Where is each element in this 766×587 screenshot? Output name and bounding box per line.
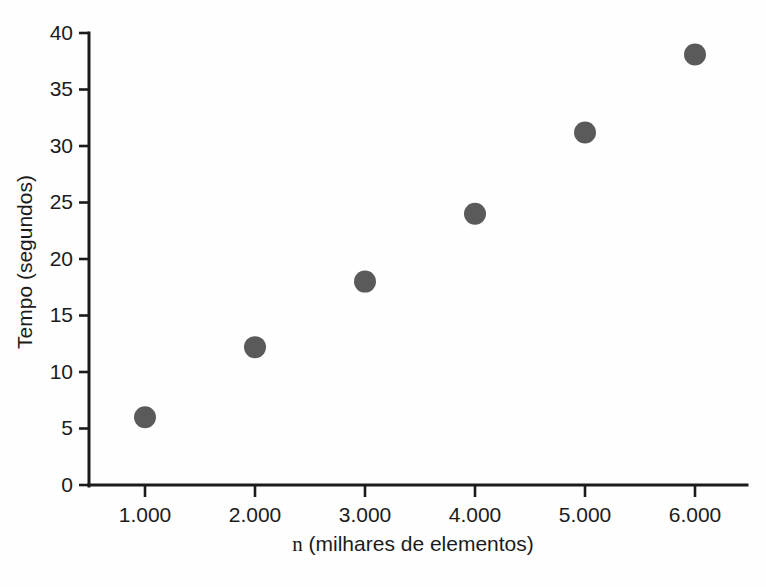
data-point-marker: [354, 271, 376, 293]
y-tick-label: 0: [61, 473, 73, 496]
plot-area: 0510152025303540 1.0002.0003.0004.0005.0…: [0, 0, 766, 587]
y-tick-label: 20: [50, 247, 73, 270]
x-tick-label: 1.000: [119, 503, 172, 526]
x-tick-label: 2.000: [229, 503, 282, 526]
x-tick-marks: [145, 485, 695, 497]
scatter-chart-svg: 0510152025303540 1.0002.0003.0004.0005.0…: [0, 0, 766, 587]
data-point-marker: [134, 406, 156, 428]
x-tick-label: 4.000: [449, 503, 502, 526]
y-tick-label: 40: [50, 21, 73, 44]
x-tick-labels: 1.0002.0003.0004.0005.0006.000: [119, 503, 722, 526]
y-tick-label: 10: [50, 360, 73, 383]
x-tick-label: 6.000: [669, 503, 722, 526]
data-point-marker: [244, 336, 266, 358]
data-point-marker: [684, 43, 706, 65]
y-tick-label: 15: [50, 303, 73, 326]
y-tick-labels: 0510152025303540: [50, 21, 73, 496]
data-point-marker: [464, 203, 486, 225]
data-point-marker: [574, 121, 596, 143]
x-tick-label: 5.000: [559, 503, 612, 526]
y-tick-label: 25: [50, 190, 73, 213]
y-tick-label: 30: [50, 134, 73, 157]
y-tick-label: 35: [50, 77, 73, 100]
y-axis-title: Tempo (segundos): [13, 175, 36, 349]
y-tick-label: 5: [61, 416, 73, 439]
chart-figure: 0510152025303540 1.0002.0003.0004.0005.0…: [0, 0, 766, 587]
data-points: [134, 43, 706, 428]
x-axis-title: n (milhares de elementos): [292, 532, 534, 556]
x-tick-label: 3.000: [339, 503, 392, 526]
